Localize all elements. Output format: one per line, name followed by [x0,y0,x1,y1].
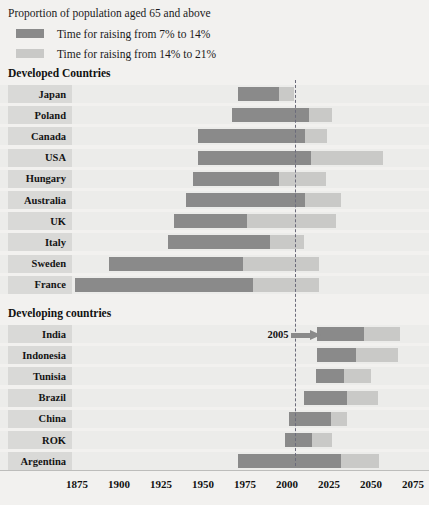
country-label-rok: ROK [8,431,72,449]
bar-segment-14to21 [344,369,371,383]
country-label-uk: UK [8,212,72,230]
country-label-text: Poland [34,110,66,121]
country-label-brazil: Brazil [8,389,72,407]
bar-segment-14to21 [279,172,326,186]
table-row: UK [0,212,429,230]
bar-segment-7to14 [316,369,345,383]
country-label-japan: Japan [8,85,72,103]
table-row: USA [0,149,429,167]
bar-segment-7to14 [238,87,278,101]
x-axis-tick-1875: 1875 [66,478,88,490]
country-label-tunisia: Tunisia [8,367,72,385]
bar-segment-14to21 [243,257,319,271]
bar-segment-14to21 [279,87,294,101]
country-label-text: India [42,329,66,340]
country-label-indonesia: Indonesia [8,346,72,364]
bar-segment-7to14 [168,235,270,249]
table-row: India [0,325,429,343]
table-row: Japan [0,85,429,103]
chart-root: Proportion of population aged 65 and abo… [0,0,429,505]
table-row: Australia [0,191,429,209]
reference-line-2005 [295,80,296,466]
bar-segment-7to14 [285,433,312,447]
country-label-usa: USA [8,149,72,167]
table-row: ROK [0,431,429,449]
x-axis-tick-2000: 2000 [276,478,298,490]
x-axis-tick-2050: 2050 [360,478,382,490]
bar-segment-7to14 [174,214,246,228]
arrow-head [310,330,321,340]
x-axis-tick-2025: 2025 [318,478,340,490]
bar-segment-14to21 [312,433,332,447]
bar-segment-7to14 [198,129,306,143]
country-label-italy: Italy [8,233,72,251]
bar-segment-7to14 [75,278,253,292]
country-label-china: China [8,410,72,428]
bar-segment-14to21 [247,214,336,228]
country-label-text: Argentina [21,456,67,467]
table-row: Sweden [0,255,429,273]
table-row: Indonesia [0,346,429,364]
annotation-2005-label: 2005 [267,327,288,343]
bar-segment-7to14 [238,454,340,468]
country-label-text: Italy [45,237,66,248]
x-axis-tick-1900: 1900 [108,478,130,490]
bar-segment-7to14 [304,391,348,405]
bar-segment-7to14 [198,151,311,165]
country-label-text: France [35,279,67,290]
bar-segment-14to21 [305,193,340,207]
bar-segment-14to21 [309,108,333,122]
country-label-hungary: Hungary [8,170,72,188]
country-label-text: USA [45,152,66,163]
arrow-shaft [291,333,311,338]
x-axis-line [0,470,429,471]
table-row: Tunisia [0,367,429,385]
bar-segment-14to21 [341,454,380,468]
table-row: Canada [0,127,429,145]
bar-segment-7to14 [109,257,243,271]
country-label-australia: Australia [8,191,72,209]
bar-segment-14to21 [270,235,304,249]
country-label-text: Australia [24,195,66,206]
table-row: Hungary [0,170,429,188]
table-row: Brazil [0,389,429,407]
bar-segment-14to21 [364,327,399,341]
arrow-right-icon [291,330,321,340]
bar-segment-14to21 [356,348,398,362]
country-label-text: China [39,413,66,424]
country-label-sweden: Sweden [8,255,72,273]
x-axis-tick-1950: 1950 [192,478,214,490]
bar-segment-14to21 [305,129,327,143]
bar-segment-14to21 [331,412,348,426]
country-label-text: ROK [42,435,66,446]
country-label-canada: Canada [8,127,72,145]
x-axis-tick-2075: 2075 [402,478,424,490]
x-axis-tick-1975: 1975 [234,478,256,490]
bar-segment-7to14 [317,348,356,362]
country-label-text: Tunisia [33,371,66,382]
country-label-text: Japan [39,89,66,100]
plot-area: JapanPolandCanadaUSAHungaryAustraliaUKIt… [0,0,429,505]
table-row: Italy [0,233,429,251]
bar-segment-7to14 [186,193,305,207]
bar-segment-14to21 [347,391,377,405]
country-label-text: Sweden [32,258,66,269]
table-row: France [0,276,429,294]
bar-segment-14to21 [253,278,319,292]
bar-segment-7to14 [193,172,279,186]
country-label-india: India [8,325,72,343]
bar-segment-7to14 [232,108,309,122]
bar-segment-14to21 [311,151,383,165]
x-axis-tick-1925: 1925 [150,478,172,490]
country-label-text: Indonesia [22,350,66,361]
bar-segment-7to14 [317,327,364,341]
country-label-text: Brazil [39,392,66,403]
country-label-argentina: Argentina [8,452,72,470]
table-row: Poland [0,106,429,124]
country-label-text: Canada [31,131,66,142]
country-label-text: UK [50,216,66,227]
table-row: Argentina [0,452,429,470]
country-label-text: Hungary [26,173,66,184]
country-label-poland: Poland [8,106,72,124]
table-row: China [0,410,429,428]
